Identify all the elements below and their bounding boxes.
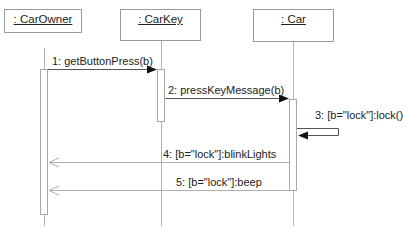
message-2-label: 2: pressKeyMessage(b) [168,84,284,96]
message-4-label: 4: [b="lock"]:blinkLights [163,148,276,160]
message-3-label: 3: [b="lock"]:lock() [315,109,403,121]
message-5-label: 5: [b="lock"]:beep [176,176,262,188]
message-1-label: 1: getButtonPress(b) [52,55,153,67]
filled-arrowhead-icon [298,132,308,140]
